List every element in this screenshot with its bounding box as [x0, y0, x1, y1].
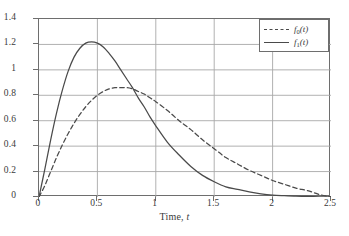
x-axis-label-text: Time, t [160, 211, 190, 222]
y-tick-label: 0.4 [4, 140, 16, 150]
y-tick-label: 1.2 [4, 39, 16, 49]
legend-swatch-dashed [264, 29, 289, 30]
x-tick-label: 2.5 [324, 199, 336, 209]
chart-legend: f0(t) f1(t) [259, 19, 329, 52]
x-tick-label: 0 [36, 199, 41, 209]
y-tick-label: 1.4 [4, 13, 16, 23]
y-tick-label: 0.8 [4, 90, 16, 100]
legend-label-f1: f1(t) [294, 38, 308, 47]
x-tick-label: 1 [152, 199, 157, 209]
legend-item-f1: f1(t) [264, 36, 324, 49]
legend-swatch-solid [264, 42, 289, 43]
x-axis-label: Time, t [0, 211, 349, 222]
y-tick-label: 0.2 [4, 166, 16, 176]
x-tick-label: 1.5 [207, 199, 219, 209]
x-tick-label: 2 [269, 199, 274, 209]
chart-figure: 00.20.40.60.811.21.4 00.511.522.5 Time, … [0, 0, 349, 236]
legend-item-f0: f0(t) [264, 23, 324, 36]
data-curves [39, 42, 331, 197]
y-tick-label: 0 [11, 191, 16, 201]
y-tick-label: 0.6 [4, 115, 16, 125]
x-tick-label: 0.5 [90, 199, 102, 209]
legend-label-f0: f0(t) [294, 25, 308, 34]
y-tick-label: 1 [11, 64, 16, 74]
